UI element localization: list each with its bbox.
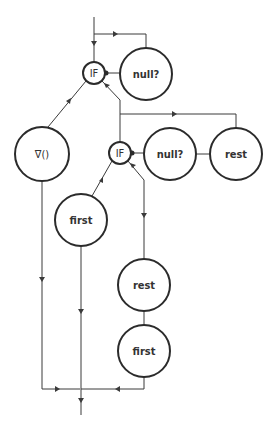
arrow-right-icon <box>172 111 177 117</box>
node-if1: IF <box>83 62 105 84</box>
arrow-up-icon <box>130 163 136 168</box>
node-if2: IF <box>109 142 131 164</box>
edge-first2-output <box>81 377 144 389</box>
node-label: IF <box>116 147 125 160</box>
arrow-up-icon <box>104 83 110 88</box>
node-first2: first <box>118 325 170 377</box>
edge-if1-if2 <box>102 81 120 142</box>
node-rest1: rest <box>210 128 262 180</box>
edge-input-null1 <box>94 34 146 48</box>
nodes: IF null? ∇() IF null? rest first rest <box>15 48 262 377</box>
arrow-down-icon <box>141 213 147 218</box>
arrow-left-icon <box>115 386 120 392</box>
node-label: rest <box>225 148 247 161</box>
node-label: first <box>70 214 93 227</box>
arrow-down-icon <box>78 309 84 314</box>
node-null2: null? <box>144 128 196 180</box>
edge-rest1-loop <box>120 114 236 128</box>
node-null1: null? <box>120 48 172 100</box>
node-label: null? <box>157 148 184 161</box>
node-first1: first <box>55 194 107 246</box>
edge-if1-nabla <box>48 81 86 127</box>
arrow-down-icon <box>78 398 84 403</box>
edge-if2-rest2 <box>128 161 144 259</box>
dataflow-diagram: IF null? ∇() IF null? rest first rest <box>0 0 277 435</box>
node-label: rest <box>133 279 155 292</box>
arrow-right-icon <box>55 386 60 392</box>
arrow-up-icon <box>66 98 71 104</box>
node-rest2: rest <box>118 259 170 311</box>
node-label: first <box>133 345 156 358</box>
node-label: ∇() <box>34 148 49 161</box>
node-label: null? <box>133 68 160 81</box>
node-label: IF <box>90 67 99 80</box>
node-nabla: ∇() <box>15 127 69 181</box>
arrow-down-icon <box>91 41 97 46</box>
arrow-down-icon <box>39 277 45 282</box>
arrow-right-icon <box>113 31 118 37</box>
